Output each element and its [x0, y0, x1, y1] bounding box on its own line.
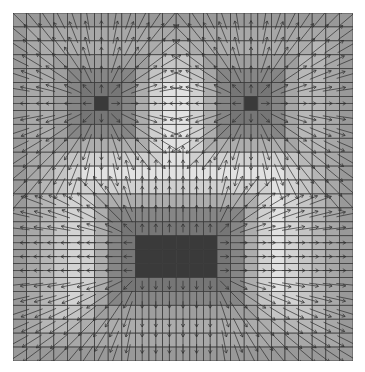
grid-cell: [190, 264, 204, 278]
grid-cell: [135, 250, 149, 264]
grid-cell: [135, 236, 149, 250]
grid-cell: [176, 250, 190, 264]
vector-field-grid: [13, 13, 353, 361]
grid-cell: [95, 97, 109, 111]
grid-cell: [163, 250, 177, 264]
grid-cell: [203, 250, 217, 264]
grid-cell: [244, 97, 258, 111]
grid-cell: [135, 264, 149, 278]
grid-cell: [190, 236, 204, 250]
grid-cell: [203, 264, 217, 278]
grid-cell: [176, 264, 190, 278]
grid-cell: [149, 236, 163, 250]
field-svg: [13, 13, 353, 361]
grid-cell: [176, 236, 190, 250]
grid-cell: [163, 264, 177, 278]
grid-cell: [190, 250, 204, 264]
grid-cell: [149, 250, 163, 264]
grid-cell: [149, 264, 163, 278]
grid-cell: [163, 236, 177, 250]
grid-cell: [203, 236, 217, 250]
